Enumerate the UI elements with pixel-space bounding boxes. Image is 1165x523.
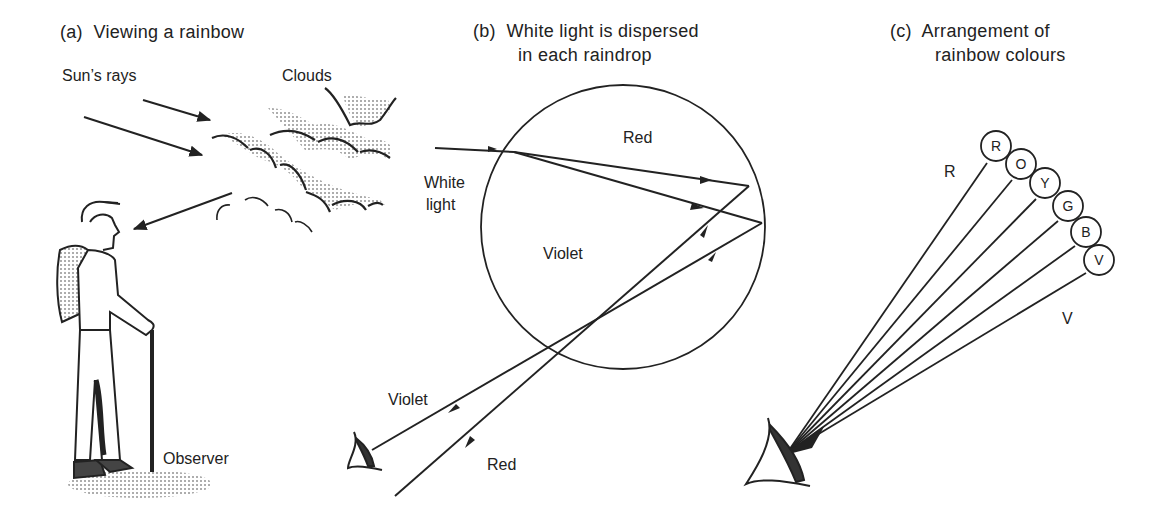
colour-label-r: R bbox=[991, 138, 1001, 154]
violet-inside-label: Violet bbox=[543, 244, 583, 263]
white-light-label-line2: light bbox=[426, 195, 455, 214]
panel-b-title-line2: in each raindrop bbox=[518, 45, 652, 66]
v-edge-label: V bbox=[1062, 309, 1073, 328]
sun-ray-arrow bbox=[84, 117, 202, 155]
panel-a-title: (a) Viewing a rainbow bbox=[60, 22, 244, 43]
colour-label-o: O bbox=[1016, 156, 1027, 172]
red-inside-label: Red bbox=[623, 128, 652, 147]
sun-rays-label: Sun’s rays bbox=[62, 66, 136, 85]
white-light-label-line1: White bbox=[424, 173, 465, 192]
clouds-label: Clouds bbox=[282, 66, 332, 85]
r-edge-label: R bbox=[944, 162, 956, 181]
panel-c-title-line1: (c) Arrangement of bbox=[890, 21, 1050, 42]
observer-icon bbox=[57, 202, 153, 478]
colour-label-v: V bbox=[1094, 252, 1104, 268]
red-out-label: Red bbox=[487, 455, 516, 474]
eye-icon bbox=[746, 418, 810, 486]
colour-label-y: Y bbox=[1040, 175, 1050, 191]
sun-ray-arrow bbox=[143, 100, 210, 120]
panel-b-illustration bbox=[348, 85, 765, 496]
white-light-ray bbox=[435, 148, 514, 152]
panel-b-title-line1: (b) White light is dispersed bbox=[473, 21, 699, 42]
red-ray-internal bbox=[514, 152, 749, 186]
panel-a-illustration bbox=[57, 88, 396, 498]
clouds-icon bbox=[212, 88, 396, 232]
panel-c-illustration: R O Y G B V bbox=[746, 131, 1114, 486]
panel-c-title-line2: rainbow colours bbox=[935, 45, 1066, 66]
violet-ray-internal bbox=[514, 152, 762, 223]
colour-label-b: B bbox=[1081, 224, 1090, 240]
colour-label-g: G bbox=[1063, 198, 1074, 214]
violet-out-label: Violet bbox=[388, 390, 428, 409]
rainbow-light-arrow bbox=[134, 193, 232, 229]
observer-label: Observer bbox=[163, 449, 229, 468]
eye-icon bbox=[348, 432, 382, 470]
red-ray-reflected bbox=[395, 186, 749, 496]
